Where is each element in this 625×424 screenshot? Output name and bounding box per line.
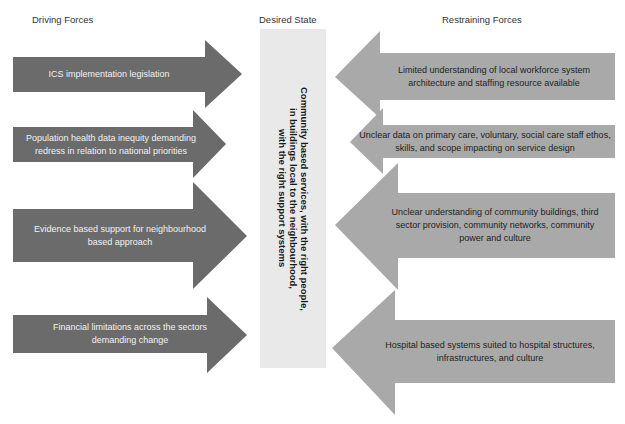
driving-force-label: Financial limitations across the sectors… [40,315,220,353]
driving-force-label: Evidence based support for neighbourhood… [22,209,218,262]
restraining-force-label: Unclear data on primary care, voluntary,… [350,125,620,158]
driving-force-label: ICS implementation legislation [13,57,205,92]
restraining-force-label: Hospital based systems suited to hospita… [370,320,610,383]
restraining-force-label: Unclear understanding of community build… [385,193,605,258]
driving-force-label: Population health data inequity demandin… [13,127,209,162]
restraining-force-label: Limited understanding of local workforce… [378,53,610,100]
desired-state-text-container: Community based services, with the right… [260,29,326,368]
desired-state-text: Community based services, with the right… [277,87,310,311]
